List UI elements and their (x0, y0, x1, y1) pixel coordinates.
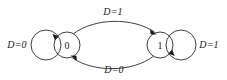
transition-0-to-1 (74, 21, 157, 34)
transition-self-loop-state-1 (166, 30, 196, 60)
arc-0-to-1-path (74, 21, 155, 33)
transition-label-0-to-1: D=1 (102, 6, 122, 17)
state-diagram-canvas: 0 1 D=0 D=1 D=0 D=1 (0, 0, 227, 80)
self-loop-0-path (31, 30, 61, 60)
transition-label-1-to-0: D=0 (103, 64, 123, 75)
state-1-label: 1 (158, 40, 163, 51)
transition-self-loop-state-0 (31, 30, 61, 60)
transition-label-self-loop-1: D=1 (198, 39, 218, 50)
transition-label-self-loop-0: D=0 (6, 39, 26, 50)
state-node-1[interactable]: 1 (147, 32, 173, 58)
state-diagram-svg: 0 1 D=0 D=1 D=0 D=1 (0, 0, 227, 80)
self-loop-1-path (166, 30, 196, 60)
state-0-label: 0 (65, 40, 70, 51)
state-node-0[interactable]: 0 (54, 32, 80, 58)
